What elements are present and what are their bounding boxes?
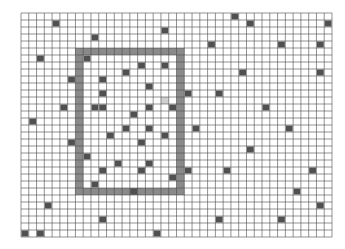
filled-cell[interactable] (138, 168, 145, 174)
filled-cell[interactable] (115, 161, 122, 167)
filled-cell[interactable] (99, 217, 106, 223)
filled-cell[interactable] (68, 140, 75, 146)
filled-cell[interactable] (263, 105, 270, 111)
filled-cell[interactable] (91, 105, 98, 111)
filled-cell[interactable] (317, 70, 324, 76)
filled-cell[interactable] (185, 91, 192, 97)
filled-cell[interactable] (91, 182, 98, 188)
filled-cell[interactable] (53, 21, 60, 27)
filled-cell[interactable] (107, 133, 114, 139)
filled-cell[interactable] (45, 203, 52, 209)
filled-cell[interactable] (123, 126, 130, 132)
grid-lines (21, 13, 332, 237)
filled-cell[interactable] (247, 147, 254, 153)
filled-cell[interactable] (99, 105, 106, 111)
filled-cell[interactable] (169, 175, 176, 181)
filled-cell[interactable] (146, 84, 153, 90)
filled-cell[interactable] (239, 70, 246, 76)
filled-cell[interactable] (138, 140, 145, 146)
filled-cell[interactable] (231, 14, 238, 20)
filled-cell[interactable] (161, 63, 168, 69)
filled-cell[interactable] (37, 231, 44, 237)
filled-cell[interactable] (309, 168, 316, 174)
filled-cell[interactable] (247, 21, 254, 27)
filled-cell[interactable] (91, 35, 98, 41)
filled-cell[interactable] (68, 77, 75, 83)
filled-cell[interactable] (169, 105, 176, 111)
filled-cell[interactable] (185, 168, 192, 174)
filled-cell[interactable] (99, 168, 106, 174)
filled-cell[interactable] (146, 105, 153, 111)
filled-cell[interactable] (161, 133, 168, 139)
filled-cell[interactable] (22, 231, 29, 237)
filled-cell[interactable] (84, 56, 91, 62)
filled-cell[interactable] (216, 91, 223, 97)
filled-cell[interactable] (325, 21, 332, 27)
filled-cell[interactable] (29, 119, 36, 125)
game-board[interactable] (0, 0, 345, 249)
filled-cell[interactable] (146, 126, 153, 132)
filled-cell[interactable] (130, 189, 137, 195)
filled-cell[interactable] (138, 63, 145, 69)
frame-left (75, 48, 83, 195)
filled-cell[interactable] (216, 217, 223, 223)
filled-cell[interactable] (60, 105, 67, 111)
filled-cell[interactable] (84, 154, 91, 160)
highlight-cell (161, 97, 169, 104)
filled-cell[interactable] (154, 231, 161, 237)
filled-cell[interactable] (294, 189, 301, 195)
filled-cell[interactable] (278, 217, 285, 223)
frame-right (177, 48, 185, 195)
filled-cell[interactable] (99, 91, 106, 97)
filled-cell[interactable] (146, 161, 153, 167)
filled-cell[interactable] (99, 77, 106, 83)
filled-cell[interactable] (130, 112, 137, 118)
filled-cell[interactable] (278, 42, 285, 48)
filled-cell[interactable] (193, 126, 200, 132)
filled-cell[interactable] (123, 70, 130, 76)
filled-cell[interactable] (224, 168, 231, 174)
highlight-cells (161, 97, 169, 104)
filled-cell[interactable] (286, 126, 293, 132)
filled-cell[interactable] (317, 203, 324, 209)
filled-cell[interactable] (161, 28, 168, 34)
filled-cell[interactable] (208, 42, 215, 48)
filled-cell[interactable] (317, 42, 324, 48)
filled-cell[interactable] (37, 56, 44, 62)
